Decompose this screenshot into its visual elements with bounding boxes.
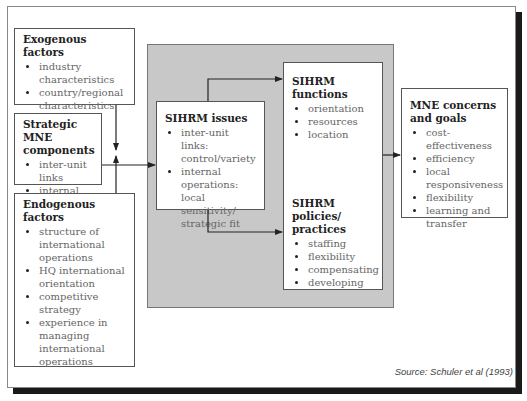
sihrm-functions-policies-box: SIHRM functions orientationresourcesloca… [283, 62, 383, 290]
box-title: Endogenous factors [23, 198, 128, 224]
list-item: location [292, 128, 376, 141]
list-item: flexibility [410, 191, 501, 204]
box-title: SIHRM issues [165, 112, 258, 125]
bullet-list: inter-unit links: control/varietyinterna… [165, 126, 258, 230]
list-item: compensating [292, 263, 376, 276]
exogenous-factors-box: Exogenous factors industry characteristi… [14, 28, 135, 105]
source-caption: Source: Schuler et al (1993) [395, 366, 513, 377]
bullet-list: staffingflexibilitycompensatingdevelopin… [292, 237, 376, 289]
bullet-list: cost-effectivenessefficiencylocal respon… [410, 126, 501, 230]
list-item: structure of international operations [23, 225, 128, 264]
mne-goals-box: MNE concerns and goals cost-effectivenes… [401, 88, 508, 218]
bullet-list: structure of international operationsHQ … [23, 225, 128, 368]
list-item: HQ international orientation [23, 264, 128, 290]
list-item: staffing [292, 237, 376, 250]
bullet-list: industry characteristicscountry/regional… [23, 60, 128, 112]
list-item: competitive strategy [23, 290, 128, 316]
list-item: flexibility [292, 250, 376, 263]
list-item: cost-effectiveness [410, 126, 501, 152]
box-title: Strategic MNE components [23, 118, 95, 157]
list-item: developing [292, 276, 376, 289]
list-item: local responsiveness [410, 165, 501, 191]
bullet-list: orientationresourceslocation [292, 102, 376, 141]
list-item: orientation [292, 102, 376, 115]
list-item: efficiency [410, 152, 501, 165]
list-item: learning and transfer [410, 204, 501, 230]
box-title: SIHRM policies/ practices [292, 197, 376, 236]
sihrm-issues-box: SIHRM issues inter-unit links: control/v… [156, 101, 265, 210]
list-item: inter-unit links [23, 158, 95, 184]
strategic-components-box: Strategic MNE components inter-unit link… [14, 113, 102, 185]
endogenous-factors-box: Endogenous factors structure of internat… [14, 193, 135, 367]
list-item: experience in managing international ope… [23, 316, 128, 368]
list-item: industry characteristics [23, 60, 128, 86]
list-item: country/regional characteristics [23, 86, 128, 112]
list-item: inter-unit links: control/variety [165, 126, 258, 165]
list-item: internal operations: local sensitivity/ … [165, 165, 258, 230]
list-item: resources [292, 115, 376, 128]
box-title: SIHRM functions [292, 75, 376, 101]
box-title: MNE concerns and goals [410, 99, 501, 125]
box-title: Exogenous factors [23, 33, 128, 59]
